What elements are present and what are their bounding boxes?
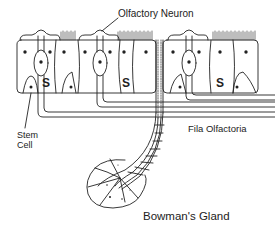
label-stem-cell-line1: Stem [17, 130, 38, 140]
cilia [61, 31, 255, 40]
label-bowmans-gland: Bowman's Gland [143, 211, 230, 223]
fila-olfactoria-bundle [156, 40, 163, 118]
s-marker-3: S [216, 76, 224, 90]
neuron-leader-line [102, 18, 118, 31]
olfactory-epithelium-diagram: S S S [0, 0, 275, 234]
stem-leader-line [25, 93, 31, 128]
olfactory-neuron-1 [20, 30, 275, 117]
label-stem-cell: Stem Cell [17, 130, 38, 150]
label-olfactory-neuron: Olfactory Neuron [118, 9, 194, 19]
s-marker-2: S [122, 76, 130, 90]
cell-boundaries [55, 40, 235, 93]
label-stem-cell-line2: Cell [17, 140, 38, 150]
label-fila-olfactoria: Fila Olfactoria [188, 124, 247, 134]
s-marker-1: S [42, 76, 50, 90]
bowmans-gland-duct [98, 113, 164, 189]
